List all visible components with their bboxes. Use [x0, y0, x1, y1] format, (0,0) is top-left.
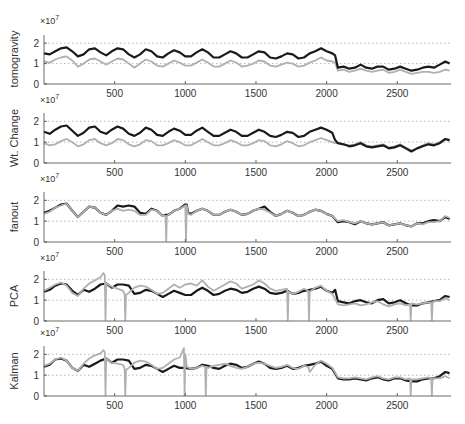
x-tick-label: 2000 [316, 167, 339, 178]
series-estimate-line [44, 47, 450, 70]
x-tick-label: 1000 [174, 325, 197, 336]
x-tick-label: 1500 [245, 246, 268, 257]
x-tick-label: 2500 [386, 325, 409, 336]
y-axis-label: fanout [8, 202, 20, 233]
x-tick-label: 1500 [245, 167, 268, 178]
y-axis-label: Wt. Change [8, 109, 20, 167]
x-tick-label: 2500 [386, 88, 409, 99]
series-actual-line [44, 204, 450, 242]
y-tick-label: 2 [33, 116, 39, 127]
y-axis-label: tomogravity [8, 30, 20, 87]
y-tick-label: 1 [33, 58, 39, 69]
y-tick-label: 1 [33, 137, 39, 148]
panel-fanout: ×107 fanout 0125001000150020002500 [8, 172, 451, 257]
y-multiplier: ×107 [40, 172, 59, 184]
series-actual-line [44, 56, 450, 73]
y-axis-label: Kalman [8, 352, 20, 389]
y-axis-label: PCA [8, 284, 20, 307]
y-tick-label: 2 [33, 274, 39, 285]
y-multiplier: ×107 [40, 251, 59, 263]
panel-tomogravity: ×107 tomogravity 0125001000150020002500 [8, 14, 451, 99]
y-tick-label: 1 [33, 370, 39, 381]
x-tick-label: 500 [106, 246, 123, 257]
panel-pca: ×107 PCA 0125001000150020002500 [8, 251, 451, 336]
x-tick-label: 1000 [174, 246, 197, 257]
y-tick-label: 0 [33, 79, 39, 90]
x-tick-label: 1000 [174, 167, 197, 178]
x-tick-label: 2000 [316, 88, 339, 99]
y-tick-label: 0 [33, 158, 39, 169]
y-multiplier: ×107 [40, 326, 59, 338]
x-tick-label: 2000 [316, 246, 339, 257]
x-tick-label: 1500 [245, 400, 268, 411]
panel-wt-change: ×107 Wt. Change 0125001000150020002500 [8, 93, 451, 178]
y-tick-label: 1 [33, 216, 39, 227]
x-tick-label: 500 [106, 325, 123, 336]
figure: ×107 tomogravity 0125001000150020002500 … [0, 0, 465, 424]
x-tick-label: 1500 [245, 325, 268, 336]
x-tick-label: 2500 [386, 246, 409, 257]
x-tick-label: 1500 [245, 88, 268, 99]
series-estimate-line [44, 126, 450, 152]
x-tick-label: 2500 [386, 167, 409, 178]
x-tick-label: 500 [106, 167, 123, 178]
y-multiplier: ×107 [40, 14, 59, 26]
y-tick-label: 2 [33, 195, 39, 206]
x-tick-label: 1000 [174, 88, 197, 99]
y-tick-label: 1 [33, 295, 39, 306]
x-tick-label: 500 [106, 88, 123, 99]
y-multiplier: ×107 [40, 93, 59, 105]
x-tick-label: 2000 [316, 325, 339, 336]
y-tick-label: 2 [33, 38, 39, 49]
series-actual-line [44, 273, 450, 320]
y-tick-label: 0 [33, 237, 39, 248]
panel-kalman: ×107 Kalman 0125001000150020002500 [8, 326, 451, 411]
x-tick-label: 500 [106, 400, 123, 411]
y-tick-label: 2 [33, 349, 39, 360]
x-tick-label: 2000 [316, 400, 339, 411]
y-tick-label: 0 [33, 391, 39, 402]
series-actual-line [44, 348, 450, 395]
y-tick-label: 0 [33, 316, 39, 327]
x-tick-label: 2500 [386, 400, 409, 411]
x-tick-label: 1000 [174, 400, 197, 411]
